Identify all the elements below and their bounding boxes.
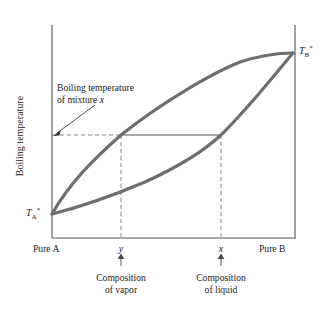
annotation-line-2-italic: x — [100, 94, 104, 105]
caption-composition-of-vapor: Composition of vapor — [96, 272, 146, 296]
plot-canvas — [0, 0, 331, 318]
caption-liquid-line-1: Composition — [196, 272, 246, 283]
caption-vapor-line-2: of vapor — [105, 284, 137, 295]
y-axis-title: Boiling temperature — [14, 0, 25, 70]
caption-liquid-line-2: of liquid — [205, 284, 238, 295]
vapor-dew-curve — [52, 53, 293, 214]
y-axis-title-text: Boiling temperature — [14, 70, 25, 202]
caption-vapor-line-1: Composition — [96, 272, 146, 283]
boiling-point-diagram-figure: Boiling temperature Boiling temperature … — [0, 0, 331, 318]
label-ta-subscript: A — [32, 213, 37, 221]
x-axis-label-pure-b: Pure B — [259, 243, 285, 254]
vapor-tick-up-arrow-icon — [118, 254, 125, 267]
label-ta-superscript: * — [37, 206, 41, 214]
annotation-line-1: Boiling temperature — [57, 82, 134, 93]
annotation-leader-line — [57, 105, 95, 133]
x-axis-tick-liquid: x — [219, 243, 223, 254]
boiling-temperature-annotation: Boiling temperature of mixture x — [57, 82, 134, 106]
label-tb-superscript: * — [309, 44, 313, 52]
liquid-bubble-curve — [52, 53, 293, 214]
liquid-tick-up-arrow-icon — [218, 254, 225, 267]
caption-composition-of-liquid: Composition of liquid — [196, 272, 246, 296]
label-tb-star: TB* — [299, 44, 313, 59]
x-axis-label-pure-a: Pure A — [33, 243, 59, 254]
annotation-line-2-prefix: of mixture — [57, 94, 100, 105]
label-ta-star: TA* — [26, 206, 40, 221]
label-tb-subscript: B — [305, 51, 310, 59]
x-axis-tick-vapor: y — [119, 243, 123, 254]
